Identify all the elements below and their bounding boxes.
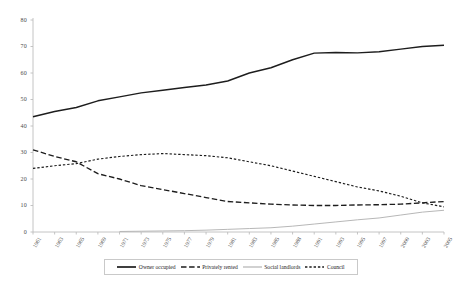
legend-item-council: Council <box>305 264 344 270</box>
y-axis-tick-label: 40 <box>5 123 27 129</box>
y-axis-tick-label: 30 <box>5 149 27 155</box>
legend-swatch-icon <box>305 264 324 270</box>
chart-legend: Owner occupiedPrivately rentedSocial lan… <box>104 259 358 275</box>
series-lines <box>33 45 444 231</box>
y-axis-tick-label: 70 <box>5 43 27 49</box>
series-line-owner-occupied <box>33 45 444 117</box>
legend-item-owner-occupied: Owner occupied <box>117 264 175 270</box>
y-axis-tick-label: 50 <box>5 96 27 102</box>
legend-swatch-icon <box>117 264 136 270</box>
legend-swatch-icon <box>181 264 200 270</box>
legend-swatch-icon <box>243 264 262 270</box>
legend-label: Social landlords <box>264 264 300 270</box>
housing-tenure-line-chart: 01020304050607080 1961196319651969197119… <box>0 0 456 281</box>
y-axis-tick-label: 60 <box>5 70 27 76</box>
legend-label: Owner occupied <box>139 264 176 270</box>
legend-item-privately-rented: Privately rented <box>181 264 238 270</box>
y-axis-tick-label: 10 <box>5 202 27 208</box>
y-axis-tick-label: 0 <box>5 229 27 235</box>
legend-item-social-landlords: Social landlords <box>243 264 301 270</box>
y-axis-tick-label: 80 <box>5 17 27 23</box>
series-line-privately-rented <box>33 150 444 206</box>
legend-label: Council <box>327 264 345 270</box>
y-axis-tick-label: 20 <box>5 176 27 182</box>
series-line-social-landlords <box>120 210 444 231</box>
legend-label: Privately rented <box>202 264 238 270</box>
series-line-council <box>33 154 444 207</box>
